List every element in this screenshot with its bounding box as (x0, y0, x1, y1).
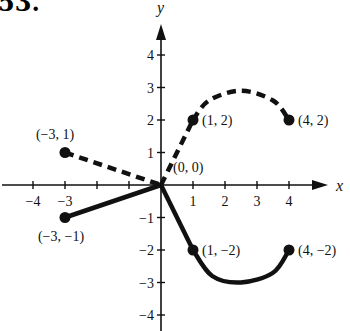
curves (60, 91, 295, 283)
y-tick-label: −4 (139, 308, 154, 323)
point-label: (1, −2) (202, 243, 241, 259)
point-label: (4, 2) (298, 113, 329, 129)
y-tick-label: 2 (147, 113, 154, 128)
x-tick-label: 2 (222, 194, 229, 209)
point-label: (4, −2) (298, 243, 337, 259)
y-tick-label: 4 (147, 48, 154, 63)
y-tick-label: −3 (139, 276, 154, 291)
x-axis-arrow-icon (312, 180, 328, 190)
endpoint-dot-icon (188, 115, 199, 126)
solid-curve-segment (161, 185, 193, 250)
x-tick-label: 1 (190, 194, 197, 209)
point-label: (0, 0) (173, 160, 204, 176)
y-tick-label: 3 (147, 81, 154, 96)
x-tick-label: −4 (26, 194, 41, 209)
y-axis-arrow-icon (156, 24, 166, 40)
endpoint-dot-icon (284, 245, 295, 256)
point-label: (−3, −1) (38, 229, 84, 245)
dashed-curve-segment (161, 120, 193, 185)
x-tick-label: 4 (286, 194, 293, 209)
y-tick-label: −1 (139, 211, 154, 226)
endpoint-dot-icon (188, 245, 199, 256)
x-tick-label: 3 (254, 194, 261, 209)
y-axis-label: y (155, 0, 165, 17)
point-label: (1, 2) (202, 113, 233, 129)
x-axis-label: x (335, 177, 343, 194)
y-tick-label: −2 (139, 243, 154, 258)
y-tick-label: 1 (147, 146, 154, 161)
endpoint-dot-icon (60, 147, 71, 158)
x-tick-label: −3 (58, 194, 73, 209)
endpoint-dot-icon (60, 212, 71, 223)
endpoint-dot-icon (284, 115, 295, 126)
point-label: (−3, 1) (36, 127, 75, 143)
graph-figure: xy−4−31234−4−3−2−11234 (−3, 1)(1, 2)(4, … (0, 0, 350, 331)
